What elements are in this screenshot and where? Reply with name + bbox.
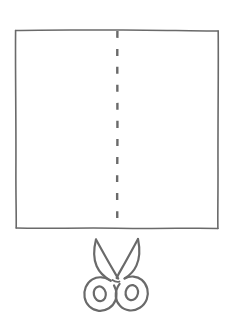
sketch-illustration [0,0,231,324]
left-blade-inner [96,240,118,279]
right-blade-inner [117,239,138,278]
paper-edge-left [16,31,17,228]
right-handle-loop [116,277,148,311]
left-handle-loop [84,277,116,310]
pivot-joint [112,280,119,282]
left-handle-hole [92,285,107,302]
paper-edge-right [218,31,219,228]
diagram-canvas: Cut along the dashed line [0,0,231,324]
scissors-icon [84,239,148,311]
paper-edge-top [16,30,219,31]
right-handle-hole [124,284,139,301]
